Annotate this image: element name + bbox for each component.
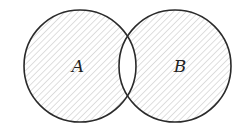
set-b-label: B — [173, 56, 187, 76]
venn-diagram: A B — [0, 0, 247, 127]
set-a-label: A — [70, 56, 84, 76]
